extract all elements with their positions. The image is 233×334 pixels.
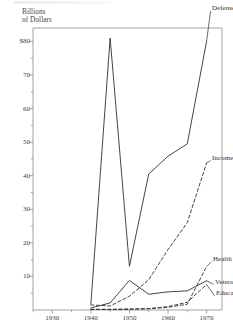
- series-line-health: [91, 266, 207, 309]
- y-axis-tick-label: 20: [23, 239, 30, 246]
- x-axis-tick-label: 1970: [200, 315, 214, 322]
- series-label-health: Health: [213, 257, 232, 264]
- plot-canvas: [33, 28, 222, 310]
- series-leader-line: [207, 284, 215, 296]
- series-line-income-security: [91, 163, 207, 306]
- y-axis-tick-label: 70: [23, 72, 30, 79]
- y-axis-tick-label: 10: [23, 273, 30, 280]
- chart-figure: Billions of Dollars 10203040506070$80193…: [0, 0, 233, 334]
- page-bleed-artifact: [14, 1, 110, 4]
- x-axis-tick-label: 1940: [84, 315, 98, 322]
- series-label-defense: Defense: [212, 6, 233, 13]
- series-label-veterans: Veterans: [215, 279, 233, 286]
- series-label-education: Education: [216, 291, 233, 298]
- series-line-defense: [91, 38, 207, 304]
- x-axis-tick-label: 1950: [122, 315, 136, 322]
- series-leader-line: [207, 281, 214, 285]
- x-axis-tick-label: 1930: [45, 315, 59, 322]
- y-axis-tick-label: 40: [23, 172, 30, 179]
- plot-area: 10203040506070$8019301940195019601970Def…: [33, 28, 222, 310]
- y-axis-tick-label: 60: [23, 105, 30, 112]
- series-line-veterans: [91, 280, 207, 308]
- y-axis-tick-label: 30: [23, 206, 30, 213]
- y-axis-tick-label: 50: [23, 139, 30, 146]
- x-axis-tick-label: 1960: [161, 315, 175, 322]
- y-axis-tick-label: $80: [20, 38, 31, 45]
- series-leader-line: [207, 160, 211, 163]
- series-leader-line: [207, 262, 212, 267]
- series-label-income-security: Income Security: [212, 155, 233, 162]
- series-leader-line: [207, 11, 211, 42]
- y-axis-title: Billions of Dollars: [22, 8, 52, 25]
